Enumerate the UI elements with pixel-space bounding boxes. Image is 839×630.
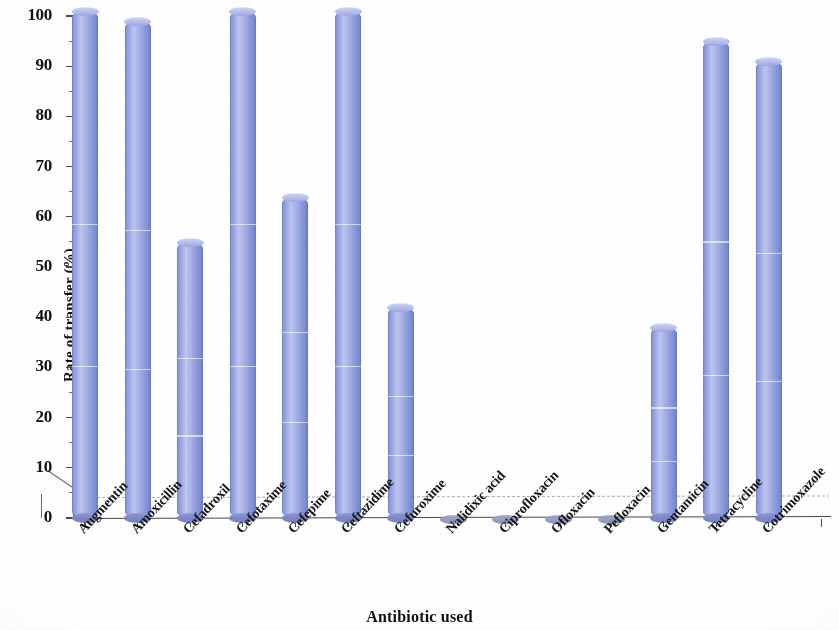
bar-seam-1 <box>703 375 729 376</box>
bar-seam-1 <box>72 366 98 367</box>
y-tick-label-100: 100 <box>10 5 52 25</box>
bar-cefotaxime <box>230 11 256 518</box>
bar-seam-0 <box>335 224 361 225</box>
bar-amoxicillin <box>125 21 151 518</box>
bar-seam-0 <box>125 230 151 231</box>
bar-seam-0 <box>651 407 677 408</box>
bar-seam-0 <box>177 358 203 359</box>
bar-cap <box>755 57 782 66</box>
bar-seam-0 <box>72 224 98 225</box>
bar-seam-0 <box>703 241 729 242</box>
bar-cap <box>229 7 256 16</box>
y-tick-label-20: 20 <box>10 407 52 427</box>
bar-cap <box>72 7 99 16</box>
bar-seam-1 <box>230 366 256 367</box>
bar-seam-0 <box>756 253 782 254</box>
y-tick-label-50: 50 <box>10 256 52 276</box>
y-tick-label-0: 0 <box>10 507 52 527</box>
bar-cap <box>387 303 414 312</box>
plot-area: 0102030405060708090100 <box>73 8 831 522</box>
bar-augmentin <box>72 11 98 518</box>
bar-cap <box>124 17 151 26</box>
bar-seam-0 <box>230 224 256 225</box>
bar-seam-1 <box>388 455 414 456</box>
bar-cefepime <box>282 197 308 518</box>
bar-cap <box>650 323 677 332</box>
bar-seam-1 <box>177 435 203 436</box>
bar-ceftazidime <box>335 11 361 518</box>
bar-cotrimoxazole <box>756 61 782 518</box>
bar-gentamicin <box>651 327 677 518</box>
bar-cap <box>335 7 362 16</box>
bar-seam-1 <box>282 422 308 423</box>
y-tick-label-10: 10 <box>10 457 52 477</box>
bar-cefadroxil <box>177 242 203 518</box>
bar-seam-1 <box>756 381 782 382</box>
y-tick-label-80: 80 <box>10 105 52 125</box>
bar-seam-1 <box>335 366 361 367</box>
bar-seam-0 <box>388 396 414 397</box>
bar-cap <box>282 193 309 202</box>
bar-seam-0 <box>282 332 308 333</box>
bar-cap <box>177 238 204 247</box>
bar-seam-1 <box>125 369 151 370</box>
y-tick-label-60: 60 <box>10 206 52 226</box>
y-tick-label-30: 30 <box>10 356 52 376</box>
bar-seam-1 <box>651 461 677 462</box>
x-axis-title: Antibiotic used <box>0 608 839 626</box>
y-tick-label-40: 40 <box>10 306 52 326</box>
y-tick-label-70: 70 <box>10 156 52 176</box>
bar-cap <box>703 37 730 46</box>
y-tick-label-90: 90 <box>10 55 52 75</box>
bar-chart-figure: Rate of transfer (%) 0102030405060708090… <box>0 0 839 630</box>
bar-tetracycline <box>703 41 729 518</box>
